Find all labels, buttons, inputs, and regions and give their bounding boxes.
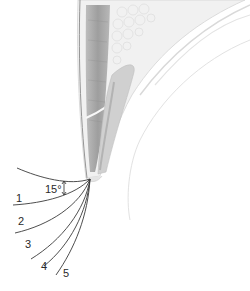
angle-arrow-icon [62, 181, 66, 195]
curl-label-2: 2 [18, 216, 24, 227]
eyelid-illustration [0, 0, 250, 291]
curl-label-1: 1 [16, 193, 22, 204]
eyelash-curl-diagram: 15° 1 2 3 4 5 [0, 0, 250, 291]
curl-label-4: 4 [41, 261, 47, 272]
eyelid-tissue [77, 0, 250, 220]
curl-label-5: 5 [63, 268, 69, 279]
lash-curve-1 [17, 168, 90, 182]
curl-label-3: 3 [25, 239, 31, 250]
angle-label: 15° [45, 184, 62, 195]
